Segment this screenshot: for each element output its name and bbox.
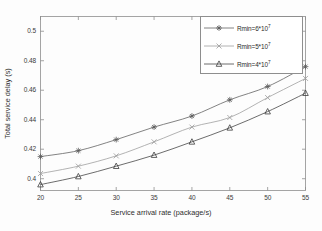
legend-item-1[interactable]: Rmin=6*107 (201, 19, 304, 37)
legend-marker-star-icon (201, 21, 237, 35)
series-2 (38, 76, 308, 176)
x-tick-label: 45 (218, 194, 242, 201)
legend-marker-triangle-icon (201, 57, 237, 71)
legend-label-2: Rmin=5*107 (237, 42, 270, 50)
legend-item-2[interactable]: Rmin=5*107 (201, 37, 304, 55)
figure-canvas: Total service delay (s) Service arrival … (0, 0, 322, 231)
legend-label-base: Rmin=6*10 (237, 25, 268, 32)
legend-label-base: Rmin=5*10 (237, 43, 268, 50)
x-tick-label: 20 (29, 194, 53, 201)
x-tick-label: 30 (104, 194, 128, 201)
x-tick-label: 25 (66, 194, 90, 201)
y-axis-label: Total service delay (s) (3, 49, 12, 157)
x-tick-label: 40 (180, 194, 204, 201)
legend-label-3: Rmin=4*107 (237, 60, 270, 68)
y-tick-label: 0.48 (8, 57, 36, 64)
y-tick-label: 0.44 (8, 116, 36, 123)
y-tick-label: 0.5 (8, 27, 36, 34)
legend: Rmin=6*107Rmin=5*107Rmin=4*107 (200, 16, 303, 74)
legend-label-exponent: 7 (268, 42, 270, 47)
series-3 (38, 90, 309, 187)
x-tick-label: 35 (142, 194, 166, 201)
legend-label-exponent: 7 (268, 60, 270, 65)
legend-label-1: Rmin=6*107 (237, 24, 270, 32)
x-tick-label: 55 (294, 194, 318, 201)
x-axis-label: Service arrival rate (package/s) (0, 208, 322, 217)
x-tick-label: 50 (256, 194, 280, 201)
legend-label-base: Rmin=4*10 (237, 61, 268, 68)
y-tick-label: 0.46 (8, 86, 36, 93)
legend-marker-cross-icon (201, 39, 237, 53)
legend-label-exponent: 7 (268, 24, 270, 29)
y-tick-label: 0.4 (8, 175, 36, 182)
legend-item-3[interactable]: Rmin=4*107 (201, 55, 304, 73)
y-tick-label: 0.42 (8, 145, 36, 152)
